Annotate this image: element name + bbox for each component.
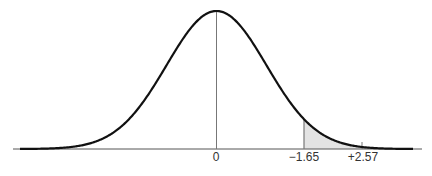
tick-label-zero: 0 (213, 150, 220, 164)
tick-label-first: −1.65 (289, 150, 319, 164)
tick-label-second: +2.57 (348, 150, 378, 164)
